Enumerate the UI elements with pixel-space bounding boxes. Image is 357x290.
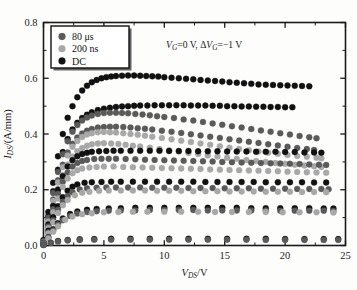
data-point <box>125 72 131 78</box>
data-point <box>183 76 189 82</box>
data-point <box>118 148 124 154</box>
data-point <box>207 142 213 148</box>
data-point <box>142 157 148 163</box>
data-point <box>275 104 281 110</box>
data-point <box>330 210 336 216</box>
data-point <box>89 210 95 216</box>
data-point <box>166 148 172 154</box>
data-point <box>106 156 112 162</box>
data-point <box>282 149 288 155</box>
data-point <box>239 159 245 165</box>
x-tick-label: 25 <box>340 250 351 261</box>
data-point <box>147 148 153 154</box>
data-point <box>190 188 196 194</box>
data-point <box>207 166 213 172</box>
data-point <box>95 111 101 117</box>
data-point <box>140 164 146 170</box>
data-point <box>113 124 119 130</box>
data-point <box>239 188 245 194</box>
data-point <box>79 88 85 94</box>
data-point <box>292 149 298 155</box>
data-point <box>270 82 276 88</box>
data-point <box>205 77 211 83</box>
data-point <box>195 103 201 109</box>
data-point <box>210 159 216 165</box>
data-point <box>239 125 245 131</box>
data-point <box>236 167 242 173</box>
data-point <box>155 74 161 80</box>
data-point <box>108 140 114 146</box>
data-point <box>84 157 90 163</box>
data-point <box>127 131 133 137</box>
data-point <box>113 110 119 116</box>
data-point <box>103 148 109 154</box>
data-point <box>263 237 269 243</box>
data-point <box>152 102 158 108</box>
data-point <box>258 160 264 166</box>
data-point <box>285 83 291 89</box>
data-point <box>268 104 274 110</box>
data-point <box>130 179 136 185</box>
data-point <box>166 237 172 243</box>
data-point <box>297 161 303 167</box>
data-point <box>178 166 184 172</box>
data-point <box>234 149 240 155</box>
data-point <box>297 209 303 215</box>
data-point <box>224 155 230 161</box>
data-point <box>323 180 329 186</box>
data-point <box>236 137 242 143</box>
data-point <box>287 179 293 185</box>
data-point <box>265 168 271 174</box>
data-point <box>108 237 114 243</box>
data-point <box>282 104 288 110</box>
iv-characteristics-chart: 05101520250.00.20.40.60.8VDS/VIDS/(A/mm)… <box>0 0 357 290</box>
data-point <box>169 136 175 142</box>
data-point <box>144 209 150 215</box>
data-point <box>107 110 113 116</box>
data-point <box>229 159 235 165</box>
data-point <box>101 164 107 170</box>
data-point <box>217 135 223 141</box>
data-point <box>195 148 201 154</box>
data-point <box>251 188 257 194</box>
data-point <box>263 149 269 155</box>
data-point <box>65 176 71 182</box>
data-point <box>299 189 305 195</box>
data-point <box>248 160 254 166</box>
data-point <box>115 209 121 215</box>
figure-panel: 05101520250.00.20.40.60.8VDS/VIDS/(A/mm)… <box>0 0 357 290</box>
data-point <box>205 148 211 154</box>
data-point <box>198 140 204 146</box>
data-point <box>314 135 320 141</box>
data-point <box>311 189 317 195</box>
data-point <box>318 155 324 161</box>
y-tick-label: 0.2 <box>24 184 37 195</box>
data-point <box>98 156 104 162</box>
data-point <box>159 135 165 141</box>
data-point <box>251 179 257 185</box>
data-point <box>125 103 131 109</box>
y-axis-label: IDS/(A/mm) <box>2 109 15 160</box>
data-point <box>171 115 177 121</box>
x-tick-label: 20 <box>280 250 291 261</box>
data-point <box>241 80 247 86</box>
data-point <box>132 111 138 117</box>
data-point <box>107 124 113 130</box>
data-point <box>159 102 165 108</box>
data-point <box>74 94 80 100</box>
data-point <box>95 140 101 146</box>
data-point <box>154 113 160 119</box>
data-point <box>316 162 322 168</box>
data-point <box>198 132 204 138</box>
data-point <box>227 179 233 185</box>
data-point <box>258 127 264 133</box>
data-point <box>60 184 66 190</box>
data-point <box>188 139 194 145</box>
data-point <box>161 209 167 215</box>
data-point <box>185 237 191 243</box>
data-point <box>321 208 327 214</box>
data-point <box>306 208 312 214</box>
data-point <box>82 180 88 186</box>
data-point <box>178 179 184 185</box>
data-point <box>304 169 310 175</box>
